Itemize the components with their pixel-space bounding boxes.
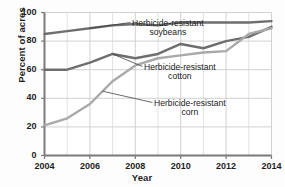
x-tick-2012: 2012: [206, 161, 246, 171]
annotation-soybeans-line2: soybeans: [132, 28, 204, 38]
y-tick-40: 40: [7, 92, 37, 102]
x-tick-2014: 2014: [252, 161, 285, 171]
annotation-cotton: Herbicide-resistantcotton: [144, 63, 216, 82]
x-tick-2004: 2004: [25, 161, 65, 171]
y-axis-title-text: Percent of acres: [15, 0, 29, 91]
x-tick-2006: 2006: [70, 161, 110, 171]
x-tick-2010: 2010: [161, 161, 201, 171]
x-tick-2008: 2008: [115, 161, 155, 171]
annotation-soybeans: Herbicide-resistantsoybeans: [132, 19, 204, 38]
annotation-cotton-line2: cotton: [144, 72, 216, 82]
y-tick-20: 20: [7, 121, 37, 131]
annotation-corn: Herbicide-resistantcorn: [154, 99, 226, 118]
chart-container: 020406080100 200420062008201020122014 He…: [0, 0, 284, 187]
annotation-corn-line2: corn: [154, 108, 226, 118]
y-axis-title: Percent of acres: [15, 0, 29, 91]
x-axis-title: Year: [0, 172, 284, 183]
y-tick-0: 0: [7, 150, 37, 160]
